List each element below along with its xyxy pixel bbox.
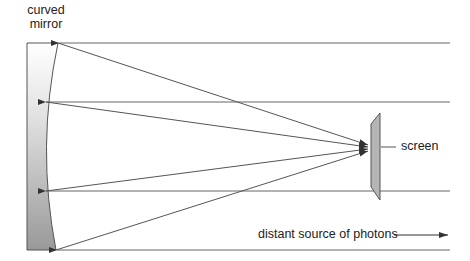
reflected-ray-1: [58, 43, 368, 145]
mirror-label-line1: curved: [18, 3, 74, 17]
screen-label: screen: [401, 139, 439, 153]
reflected-ray-3: [46, 149, 368, 191]
mirror-label: curved mirror: [18, 3, 74, 31]
reflected-ray-2: [46, 102, 368, 147]
mirror-label-line2: mirror: [18, 17, 74, 31]
curved-mirror: [27, 43, 58, 250]
telescope-diagram: [0, 0, 470, 261]
reflected-rays: [46, 43, 368, 250]
source-label: distant source of photons: [258, 227, 398, 241]
screen: [371, 113, 380, 200]
